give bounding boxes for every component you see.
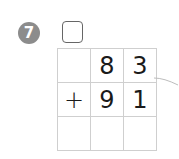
sum-cell-tens[interactable] (91, 117, 124, 151)
problem-number-badge: 7 (18, 22, 40, 44)
addition-grid: 8 3 + 9 1 (57, 48, 157, 151)
decorative-curve-line (150, 70, 179, 90)
grid-row-top: 8 3 (58, 49, 157, 83)
answer-box[interactable] (62, 21, 83, 43)
grid-cell-tens: 9 (91, 83, 124, 117)
plus-sign: + (58, 83, 91, 117)
sum-cell-ones[interactable] (124, 117, 157, 151)
grid-row-addend: + 9 1 (58, 83, 157, 117)
grid-cell (58, 49, 91, 83)
grid-cell-tens: 8 (91, 49, 124, 83)
grid-row-sum (58, 117, 157, 151)
sum-cell-hundreds[interactable] (58, 117, 91, 151)
